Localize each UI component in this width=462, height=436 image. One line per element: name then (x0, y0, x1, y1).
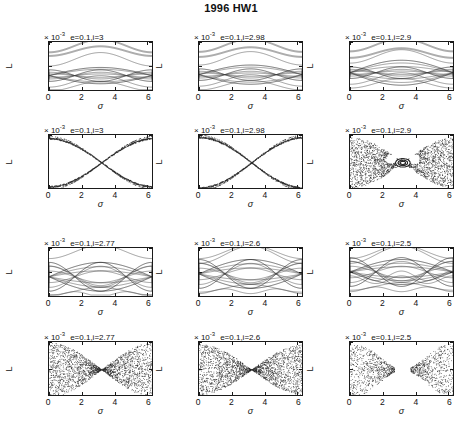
panel-header-r3c1: × 10-3e=0.1,i=2.77 (44, 236, 115, 248)
x-axis-label-r4c3: σ (399, 406, 404, 416)
plot-area-r2c2[interactable] (198, 134, 303, 189)
y-axis-label-r2c2: L (154, 155, 164, 169)
x-axis-label-r3c3: σ (399, 307, 404, 317)
xtick-r2c1-0: 0 (46, 190, 51, 200)
y-axis-label-r4c2: L (154, 362, 164, 376)
y-axis-label-r3c3: L (305, 265, 315, 279)
level-curves-r3c1 (49, 248, 152, 296)
xtick-r3c3-0: 0 (347, 298, 352, 308)
y-axis-label-r1c1: L (4, 59, 14, 73)
level-curves-r3c2 (199, 248, 302, 296)
xtick-r1c2-3: 6 (296, 92, 301, 102)
x-axis-label-r2c1: σ (98, 199, 103, 209)
xtick-r1c3-2: 4 (413, 92, 418, 102)
plot-area-r3c1[interactable] (48, 247, 153, 297)
figure-1996-hw1: 1996 HW1 × 10-3e=0.1,i=31.2851.2511.217L… (0, 0, 462, 436)
xtick-r4c2-2: 4 (262, 397, 267, 407)
panel-header-r2c2: × 10-3e=0.1,i=2.98 (194, 123, 265, 135)
xtick-r2c1-3: 6 (146, 190, 151, 200)
poincare-points-r2c2 (199, 135, 303, 189)
xtick-r1c1-0: 0 (46, 92, 51, 102)
y-axis-label-r3c2: L (154, 265, 164, 279)
xtick-r2c2-0: 0 (196, 190, 201, 200)
xtick-r2c2-1: 2 (229, 190, 234, 200)
y-axis-label-r1c3: L (305, 59, 315, 73)
xtick-r3c3-2: 4 (413, 298, 418, 308)
poincare-points-r4c2 (199, 342, 303, 396)
y-axis-label-r3c1: L (4, 265, 14, 279)
x-axis-label-r1c3: σ (399, 101, 404, 111)
plot-area-r1c2[interactable] (198, 41, 303, 91)
xtick-r4c3-0: 0 (347, 397, 352, 407)
xtick-r3c3-1: 2 (380, 298, 385, 308)
x-axis-label-r4c2: σ (248, 406, 253, 416)
poincare-points-r4c1 (49, 342, 153, 396)
panel-header-r1c3: × 10-3e=0.1,i=2.9 (345, 30, 411, 42)
x-axis-label-r4c1: σ (98, 406, 103, 416)
xtick-r4c1-0: 0 (46, 397, 51, 407)
xtick-r2c1-2: 4 (112, 190, 117, 200)
plot-area-r4c2[interactable] (198, 341, 303, 396)
x-axis-label-r2c3: σ (399, 199, 404, 209)
xtick-r3c2-0: 0 (196, 298, 201, 308)
xtick-r4c1-1: 2 (79, 397, 84, 407)
xtick-r4c2-1: 2 (229, 397, 234, 407)
plot-area-r1c1[interactable] (48, 41, 153, 91)
plot-area-r1c3[interactable] (349, 41, 454, 91)
xtick-r4c2-0: 0 (196, 397, 201, 407)
y-axis-label-r1c2: L (154, 59, 164, 73)
panel-header-r4c2: × 10-3e=0.1,i=2.6 (194, 330, 260, 342)
level-curves-r3c3 (350, 248, 453, 296)
xtick-r1c2-1: 2 (229, 92, 234, 102)
xtick-r2c1-1: 2 (79, 190, 84, 200)
xtick-r4c3-2: 4 (413, 397, 418, 407)
x-axis-label-r1c2: σ (248, 101, 253, 111)
xtick-r1c1-3: 6 (146, 92, 151, 102)
xtick-r4c3-3: 6 (447, 397, 452, 407)
xtick-r4c3-1: 2 (380, 397, 385, 407)
xtick-r3c1-2: 4 (112, 298, 117, 308)
panel-header-r1c1: × 10-3e=0.1,i=3 (44, 30, 104, 42)
plot-area-r3c3[interactable] (349, 247, 454, 297)
xtick-r1c3-1: 2 (380, 92, 385, 102)
plot-area-r2c1[interactable] (48, 134, 153, 189)
xtick-r1c3-0: 0 (347, 92, 352, 102)
plot-area-r3c2[interactable] (198, 247, 303, 297)
xtick-r2c3-1: 2 (380, 190, 385, 200)
plot-area-r2c3[interactable] (349, 134, 454, 189)
panel-header-r2c3: × 10-3e=0.1,i=2.9 (345, 123, 411, 135)
figure-title: 1996 HW1 (0, 2, 462, 14)
plot-area-r4c3[interactable] (349, 341, 454, 396)
xtick-r4c2-3: 6 (296, 397, 301, 407)
xtick-r2c2-3: 6 (296, 190, 301, 200)
xtick-r2c2-2: 4 (262, 190, 267, 200)
poincare-points-r2c1 (49, 135, 153, 189)
xtick-r3c2-3: 6 (296, 298, 301, 308)
xtick-r3c1-3: 6 (146, 298, 151, 308)
xtick-r2c3-3: 6 (447, 190, 452, 200)
x-axis-label-r1c1: σ (98, 101, 103, 111)
x-axis-label-r3c2: σ (248, 307, 253, 317)
xtick-r4c1-2: 4 (112, 397, 117, 407)
xtick-r1c3-3: 6 (447, 92, 452, 102)
panel-header-r3c3: × 10-3e=0.1,i=2.5 (345, 236, 411, 248)
x-axis-label-r2c2: σ (248, 199, 253, 209)
xtick-r3c3-3: 6 (447, 298, 452, 308)
xtick-r3c2-2: 4 (262, 298, 267, 308)
level-curves-r1c3 (350, 42, 453, 90)
level-curves-r1c2 (199, 42, 302, 90)
poincare-points-r4c3 (350, 342, 454, 396)
panel-header-r4c3: × 10-3e=0.1,i=2.5 (345, 330, 411, 342)
y-axis-label-r4c3: L (305, 362, 315, 376)
panel-header-r1c2: × 10-3e=0.1,i=2.98 (194, 30, 265, 42)
xtick-r1c2-0: 0 (196, 92, 201, 102)
plot-area-r4c1[interactable] (48, 341, 153, 396)
panel-header-r4c1: × 10-3e=0.1,i=2.77 (44, 330, 115, 342)
y-axis-label-r4c1: L (4, 362, 14, 376)
x-axis-label-r3c1: σ (98, 307, 103, 317)
xtick-r3c1-1: 2 (79, 298, 84, 308)
poincare-points-r2c3 (350, 135, 454, 189)
y-axis-label-r2c1: L (4, 155, 14, 169)
y-axis-label-r2c3: L (305, 155, 315, 169)
xtick-r1c2-2: 4 (262, 92, 267, 102)
